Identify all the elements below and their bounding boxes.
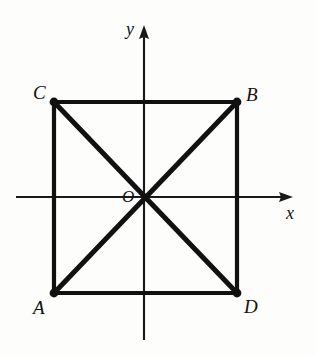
vertex-label-D: D: [244, 297, 258, 316]
vertex-dot-A: [50, 289, 59, 298]
vertex-label-A: A: [33, 298, 45, 317]
y-axis-label: y: [126, 20, 134, 38]
figure-canvas: [0, 0, 316, 356]
y-axis-arrow-icon: [139, 25, 149, 39]
x-axis-label: x: [286, 204, 294, 222]
vertex-dot-D: [233, 289, 242, 298]
geometry-figure: C B D A O y x: [0, 0, 316, 356]
vertex-dot-B: [233, 98, 242, 107]
x-axis-arrow-icon: [279, 192, 293, 202]
vertex-dot-C: [50, 98, 59, 107]
vertex-label-B: B: [246, 85, 258, 104]
origin-dot: [142, 194, 149, 201]
vertex-label-C: C: [33, 83, 46, 102]
origin-label-O: O: [122, 188, 134, 205]
